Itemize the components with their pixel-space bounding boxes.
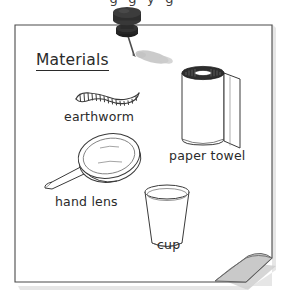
note-scene: g g y g <box>0 0 286 302</box>
label-hand-lens: hand lens <box>55 194 118 209</box>
materials-heading: Materials <box>36 51 109 69</box>
materials-heading-text: Materials <box>36 51 109 71</box>
label-earthworm: earthworm <box>64 109 134 124</box>
label-cup: cup <box>157 237 180 252</box>
label-paper-towel: paper towel <box>169 148 245 163</box>
paper-towel-roll-icon <box>182 66 240 148</box>
